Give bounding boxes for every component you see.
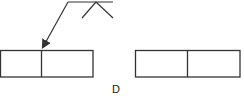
arrow-leader xyxy=(43,2,68,47)
weld-symbol-icon xyxy=(82,2,113,18)
right-plate-assembly xyxy=(136,50,241,77)
figure-label: D xyxy=(112,84,120,95)
weld-diagram xyxy=(0,0,244,96)
left-plate-assembly xyxy=(1,50,94,77)
